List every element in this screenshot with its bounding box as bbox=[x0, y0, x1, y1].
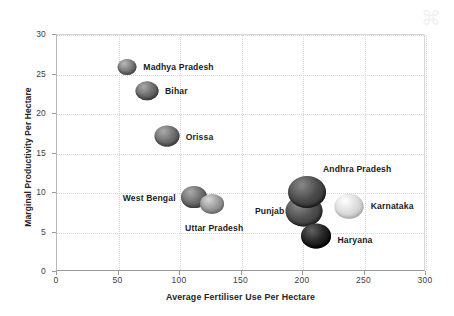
x-tick-mark bbox=[56, 271, 57, 275]
data-label-uttar-pradesh: Uttar Pradesh bbox=[185, 223, 243, 233]
data-label-andhra-pradesh: Andhra Pradesh bbox=[323, 164, 391, 174]
y-tick-label: 30 bbox=[36, 29, 46, 39]
watermark-icon: ⌘ bbox=[420, 6, 442, 30]
x-tick-label: 300 bbox=[418, 275, 433, 285]
y-tick-mark bbox=[52, 113, 56, 114]
y-axis-title: Marginal Productivity Per Hectare bbox=[23, 57, 33, 257]
x-tick-mark bbox=[425, 271, 426, 275]
y-tick-label: 5 bbox=[41, 227, 46, 237]
bubble-haryana[interactable] bbox=[301, 224, 331, 249]
y-tick-mark bbox=[52, 232, 56, 233]
gridline-horizontal bbox=[57, 35, 424, 36]
data-label-west-bengal: West Bengal bbox=[123, 193, 176, 203]
y-tick-mark bbox=[52, 153, 56, 154]
data-label-madhya-pradesh: Madhya Pradesh bbox=[143, 62, 213, 72]
x-tick-label: 200 bbox=[295, 275, 310, 285]
x-tick-label: 150 bbox=[233, 275, 248, 285]
bubble-chart: ⌘ 050100150200250300 051015202530 Averag… bbox=[0, 0, 454, 316]
x-tick-label: 50 bbox=[113, 275, 123, 285]
y-tick-mark bbox=[52, 271, 56, 272]
x-tick-mark bbox=[364, 271, 365, 275]
gridline-vertical bbox=[426, 35, 427, 270]
y-tick-label: 20 bbox=[36, 108, 46, 118]
data-label-punjab: Punjab bbox=[255, 206, 285, 216]
y-tick-mark bbox=[52, 192, 56, 193]
bubble-uttar-pradesh[interactable] bbox=[200, 194, 224, 214]
data-label-bihar: Bihar bbox=[165, 86, 188, 96]
x-tick-label: 0 bbox=[54, 275, 59, 285]
x-axis-title: Average Fertiliser Use Per Hectare bbox=[56, 292, 425, 302]
gridline-horizontal bbox=[57, 75, 424, 76]
bubble-madhya-pradesh[interactable] bbox=[118, 59, 137, 75]
data-label-haryana: Haryana bbox=[338, 235, 373, 245]
x-tick-mark bbox=[302, 271, 303, 275]
y-tick-mark bbox=[52, 34, 56, 35]
x-tick-label: 250 bbox=[356, 275, 371, 285]
x-tick-mark bbox=[241, 271, 242, 275]
x-tick-mark bbox=[179, 271, 180, 275]
gridline-horizontal bbox=[57, 154, 424, 155]
gridline-vertical bbox=[242, 35, 243, 270]
y-tick-mark bbox=[52, 74, 56, 75]
x-tick-mark bbox=[118, 271, 119, 275]
y-tick-label: 25 bbox=[36, 69, 46, 79]
data-label-orissa: Orissa bbox=[186, 132, 214, 142]
y-tick-label: 10 bbox=[36, 187, 46, 197]
gridline-horizontal bbox=[57, 114, 424, 115]
data-label-karnataka: Karnataka bbox=[371, 201, 414, 211]
gridline-horizontal bbox=[57, 193, 424, 194]
y-tick-label: 0 bbox=[41, 266, 46, 276]
bubble-orissa[interactable] bbox=[154, 125, 179, 146]
x-tick-label: 100 bbox=[172, 275, 187, 285]
y-tick-label: 15 bbox=[36, 148, 46, 158]
bubble-andhra-pradesh[interactable] bbox=[288, 176, 326, 208]
